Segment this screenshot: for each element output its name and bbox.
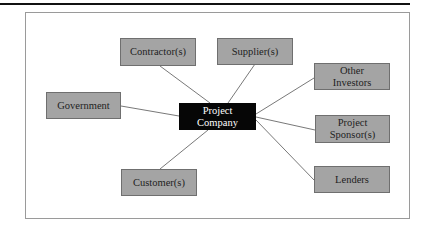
- node-label-line1: Project: [338, 117, 368, 129]
- node-label-line1: Project: [203, 105, 233, 117]
- node-label-line2: Sponsor(s): [330, 129, 376, 141]
- edge-project-sponsors: [256, 117, 315, 130]
- node-label-line2: Company: [197, 117, 238, 129]
- node-other-investors: Other Investors: [314, 63, 390, 90]
- node-label: Contractor(s): [130, 46, 186, 58]
- node-label: Supplier(s): [232, 46, 279, 58]
- node-label-line2: Investors: [333, 77, 372, 89]
- node-label-line1: Other: [340, 65, 364, 77]
- edge-contractors: [160, 66, 210, 103]
- node-suppliers: Supplier(s): [217, 38, 293, 65]
- node-project-company: Project Company: [179, 103, 256, 130]
- edge-customers: [160, 130, 208, 169]
- node-government: Government: [46, 92, 121, 119]
- node-label: Government: [57, 100, 110, 112]
- node-label: Lenders: [335, 174, 369, 186]
- edge-suppliers: [228, 64, 255, 103]
- node-lenders: Lenders: [314, 166, 390, 193]
- node-contractors: Contractor(s): [120, 38, 196, 66]
- node-project-sponsors: Project Sponsor(s): [315, 115, 390, 143]
- edge-lenders: [256, 120, 314, 180]
- edge-other-investors: [256, 78, 314, 114]
- edge-government: [121, 106, 179, 116]
- node-label: Customer(s): [133, 177, 185, 189]
- node-customers: Customer(s): [121, 169, 197, 196]
